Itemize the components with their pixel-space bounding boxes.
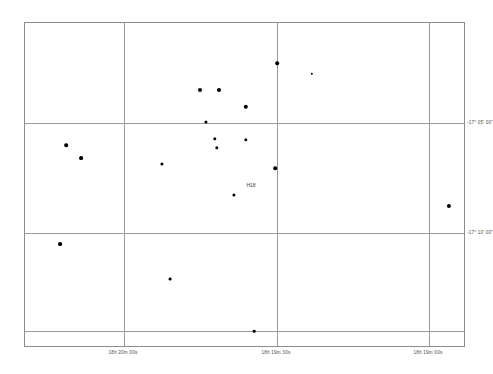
- star-marker: [217, 88, 221, 92]
- x-tick-label-0: 18h 20m 00s: [109, 350, 138, 355]
- star-marker: [64, 143, 68, 147]
- star-marker: [58, 242, 62, 246]
- gridline-horizontal-1: [25, 233, 464, 234]
- plot-frame: H18: [24, 22, 465, 347]
- x-tick-label-2: 18h 19m 00s: [414, 350, 443, 355]
- star-marker: [244, 138, 247, 141]
- gridline-vertical-1: [277, 23, 278, 346]
- star-marker: [213, 137, 216, 140]
- star-marker: [198, 88, 202, 92]
- star-marker: [169, 278, 172, 281]
- gridline-vertical-2: [429, 23, 430, 346]
- y-tick-label-1: -17° 10' 00": [467, 230, 493, 235]
- gridline-horizontal-extra-0: [25, 331, 464, 332]
- object-label-h18: H18: [246, 182, 255, 188]
- star-marker: [253, 330, 256, 333]
- star-marker: [232, 193, 235, 196]
- star-marker: [215, 146, 218, 149]
- star-marker: [273, 166, 277, 170]
- gridline-vertical-0: [124, 23, 125, 346]
- star-marker: [275, 61, 279, 65]
- gridline-horizontal-0: [25, 123, 464, 124]
- star-marker: [160, 162, 163, 165]
- x-tick-label-1: 18h 19m 30s: [262, 350, 291, 355]
- star-marker: [311, 73, 313, 75]
- star-marker: [79, 156, 83, 160]
- y-tick-label-0: -17° 05' 00": [467, 120, 493, 125]
- star-marker: [447, 204, 451, 208]
- star-marker: [244, 105, 248, 109]
